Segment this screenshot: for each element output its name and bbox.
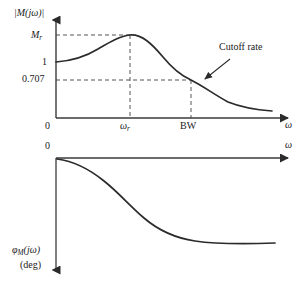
frequency-response-figure: |M(jω)| Mr 1 0.707 0 ωr BW ω Cutoff rate… <box>0 0 304 281</box>
phase-axis-label: φM(jω) <box>12 245 40 257</box>
x-tick-wr-subscript: r <box>127 125 130 133</box>
x-tick-wr: ωr <box>120 121 130 133</box>
phase-axis-label-arg: (jω) <box>24 244 41 255</box>
magnitude-origin-label: 0 <box>45 121 50 131</box>
x-tick-bw: BW <box>180 121 196 131</box>
phase-axis-units: (deg) <box>20 260 41 270</box>
y-tick-mr-subscript: r <box>39 34 42 42</box>
cutoff-rate-arrow <box>205 59 230 79</box>
y-tick-one: 1 <box>42 57 47 67</box>
magnitude-x-axis-label: ω <box>285 120 292 130</box>
y-tick-mr: Mr <box>31 30 42 42</box>
cutoff-rate-annotation: Cutoff rate <box>219 42 262 52</box>
y-tick-0707: 0.707 <box>22 74 45 84</box>
phase-x-axis-label: ω <box>285 140 292 150</box>
phase-origin-label: 0 <box>45 141 50 151</box>
phase-plot <box>56 158 288 270</box>
x-tick-wr-text: ω <box>120 120 127 131</box>
magnitude-axis-label: |M(jω)| <box>14 8 44 18</box>
magnitude-plot <box>56 20 288 118</box>
phase-curve <box>57 159 275 244</box>
